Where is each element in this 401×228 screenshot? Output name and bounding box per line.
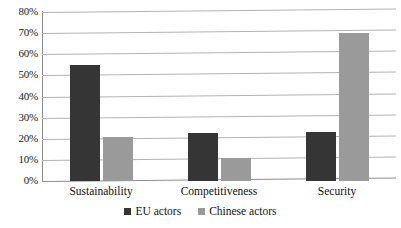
bar-competitiveness-eu-actors <box>188 133 218 181</box>
bar-sustainability-chinese-actors <box>103 137 133 181</box>
legend-label: EU actors <box>135 205 181 217</box>
y-tick-60: 60% <box>2 48 38 59</box>
gridline-80 <box>42 9 396 13</box>
chart-legend: EU actorsChinese actors <box>0 205 401 217</box>
plot-area <box>42 12 396 181</box>
y-tick-70: 70% <box>2 27 38 38</box>
y-tick-10: 10% <box>2 154 38 165</box>
y-tick-50: 50% <box>2 69 38 80</box>
bar-security-chinese-actors <box>339 33 369 181</box>
bar-sustainability-eu-actors <box>70 65 100 181</box>
y-tick-80: 80% <box>2 6 38 17</box>
bar-chart: 0%10%20%30%40%50%60%70%80% Sustainabilit… <box>0 0 401 228</box>
bar-security-eu-actors <box>306 132 336 181</box>
legend-swatch-icon <box>198 208 205 215</box>
legend-swatch-icon <box>124 208 131 215</box>
y-tick-30: 30% <box>2 112 38 123</box>
legend-label: Chinese actors <box>209 205 276 217</box>
legend-item-eu-actors[interactable]: EU actors <box>124 205 181 217</box>
legend-item-chinese-actors[interactable]: Chinese actors <box>198 205 276 217</box>
y-tick-20: 20% <box>2 133 38 144</box>
bar-competitiveness-chinese-actors <box>221 158 251 181</box>
x-axis-category-labels: SustainabilityCompetitivenessSecurity <box>42 184 396 202</box>
y-tick-40: 40% <box>2 91 38 102</box>
x-label-security: Security <box>267 184 401 198</box>
